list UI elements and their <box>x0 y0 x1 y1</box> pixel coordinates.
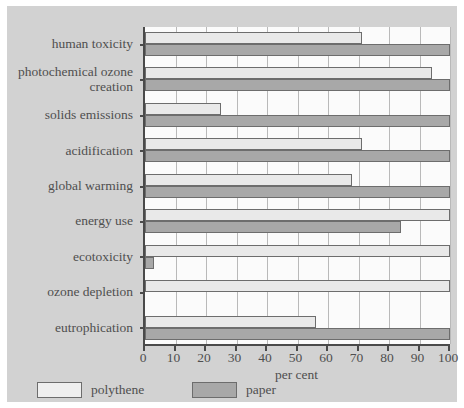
y-axis-category-labels: human toxicityphotochemical ozonecreatio… <box>7 27 138 346</box>
y-axis-label-line: ozone depletion <box>0 284 133 299</box>
bar-paper-human-toxicity <box>145 44 450 56</box>
y-axis-label-acidification: acidification <box>0 143 133 158</box>
y-axis-label-photochemical-ozone-creation: photochemical ozonecreation <box>0 64 133 94</box>
y-tick <box>140 186 145 188</box>
bar-polythene-human-toxicity <box>145 32 362 44</box>
bar-polythene-ecotoxicity <box>145 245 450 257</box>
y-tick <box>140 79 145 81</box>
y-tick <box>140 221 145 223</box>
bar-row <box>145 204 450 239</box>
legend-item-polythene[interactable]: polythene <box>37 382 144 398</box>
y-axis-label-ozone-depletion: ozone depletion <box>0 284 133 299</box>
y-axis-label-line: solids emissions <box>0 107 133 122</box>
y-tick <box>140 256 145 258</box>
gridline-x-100 <box>450 27 451 344</box>
bar-polythene-photochemical-ozone-creation <box>145 67 432 79</box>
y-axis-label-line: human toxicity <box>0 36 133 51</box>
bar-row <box>145 311 450 346</box>
bar-paper-photochemical-ozone-creation <box>145 79 450 91</box>
x-axis: 0102030405060708090100 <box>143 346 450 368</box>
bar-paper-ecotoxicity <box>145 257 154 269</box>
y-axis-label-eutrophication: eutrophication <box>0 320 133 335</box>
y-axis-label-line: acidification <box>0 143 133 158</box>
y-tick <box>140 115 145 117</box>
bar-polythene-solids-emissions <box>145 103 221 115</box>
chart-card: human toxicityphotochemical ozonecreatio… <box>7 6 457 402</box>
y-axis-label-line: global warming <box>0 178 133 193</box>
y-axis-label-line: energy use <box>0 213 133 228</box>
y-axis-label-line: photochemical ozone <box>0 64 133 79</box>
bar-row <box>145 27 450 62</box>
bar-paper-energy-use <box>145 221 401 233</box>
chart-legend: polythenepaper <box>37 382 437 404</box>
bar-polythene-global-warming <box>145 174 352 186</box>
y-axis-label-ecotoxicity: ecotoxicity <box>0 249 133 264</box>
y-axis-label-line: eutrophication <box>0 320 133 335</box>
bar-polythene-energy-use <box>145 209 450 221</box>
legend-item-paper[interactable]: paper <box>192 382 276 398</box>
y-axis-label-solids-emissions: solids emissions <box>0 107 133 122</box>
bar-polythene-ozone-depletion <box>145 280 450 292</box>
x-axis-title: per cent <box>143 367 450 383</box>
y-tick <box>140 327 145 329</box>
y-tick <box>140 150 145 152</box>
bar-row <box>145 275 450 310</box>
plot-area <box>143 27 450 346</box>
y-axis-label-global-warming: global warming <box>0 178 133 193</box>
bar-paper-global-warming <box>145 186 450 198</box>
bar-row <box>145 133 450 168</box>
chart-figure: human toxicityphotochemical ozonecreatio… <box>0 0 464 408</box>
bar-row <box>145 240 450 275</box>
y-tick <box>140 44 145 46</box>
bar-row <box>145 98 450 133</box>
bar-row <box>145 169 450 204</box>
bar-polythene-acidification <box>145 138 362 150</box>
bar-paper-eutrophication <box>145 328 450 340</box>
y-axis-label-energy-use: energy use <box>0 213 133 228</box>
bar-row <box>145 62 450 97</box>
legend-swatch-paper <box>192 382 237 398</box>
bar-paper-acidification <box>145 150 450 162</box>
legend-label-paper: paper <box>246 382 276 398</box>
x-tick-label-100: 100 <box>428 350 464 366</box>
bar-paper-solids-emissions <box>145 115 450 127</box>
legend-label-polythene: polythene <box>91 382 144 398</box>
y-axis-label-line: creation <box>0 79 133 94</box>
legend-swatch-polythene <box>37 382 82 398</box>
bar-polythene-eutrophication <box>145 316 316 328</box>
y-axis-label-human-toxicity: human toxicity <box>0 36 133 51</box>
y-axis-label-line: ecotoxicity <box>0 249 133 264</box>
y-tick <box>140 292 145 294</box>
